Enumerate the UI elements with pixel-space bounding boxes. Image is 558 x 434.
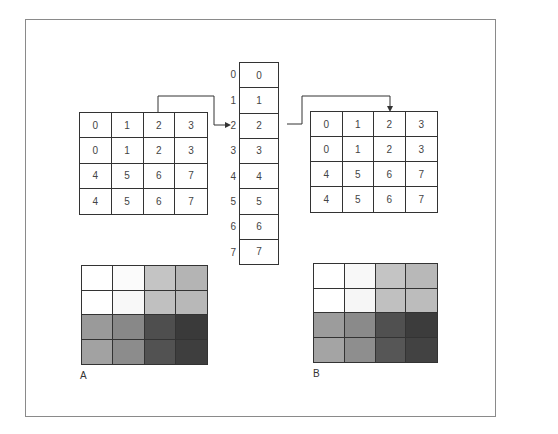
arrowhead-down-icon (387, 106, 393, 112)
arrowhead-right-icon (225, 122, 231, 128)
table-to-right-arrow (287, 96, 390, 124)
left-to-table-arrow (158, 96, 226, 125)
connector-arrows (0, 0, 558, 434)
